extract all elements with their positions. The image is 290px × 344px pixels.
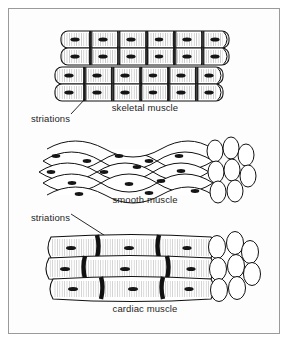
cardiac-fiber-rows xyxy=(46,235,214,302)
muscle-tissue-diagram xyxy=(9,9,281,335)
striations-leader-line-bottom xyxy=(71,214,107,237)
caption-smooth-muscle: smooth muscle xyxy=(9,194,281,205)
caption-cardiac-muscle: cardiac muscle xyxy=(9,303,281,314)
cardiac-muscle-cut-end xyxy=(209,232,261,302)
label-striations-top: striations xyxy=(31,113,70,124)
skeletal-fiber-grid xyxy=(55,31,229,101)
cardiac-muscle-illustration xyxy=(46,214,261,302)
label-striations-bottom: striations xyxy=(31,212,70,223)
figure-frame: skeletal muscle smooth muscle cardiac mu… xyxy=(8,8,280,334)
caption-skeletal-muscle: skeletal muscle xyxy=(9,102,281,113)
diagram-canvas: skeletal muscle smooth muscle cardiac mu… xyxy=(9,9,279,333)
